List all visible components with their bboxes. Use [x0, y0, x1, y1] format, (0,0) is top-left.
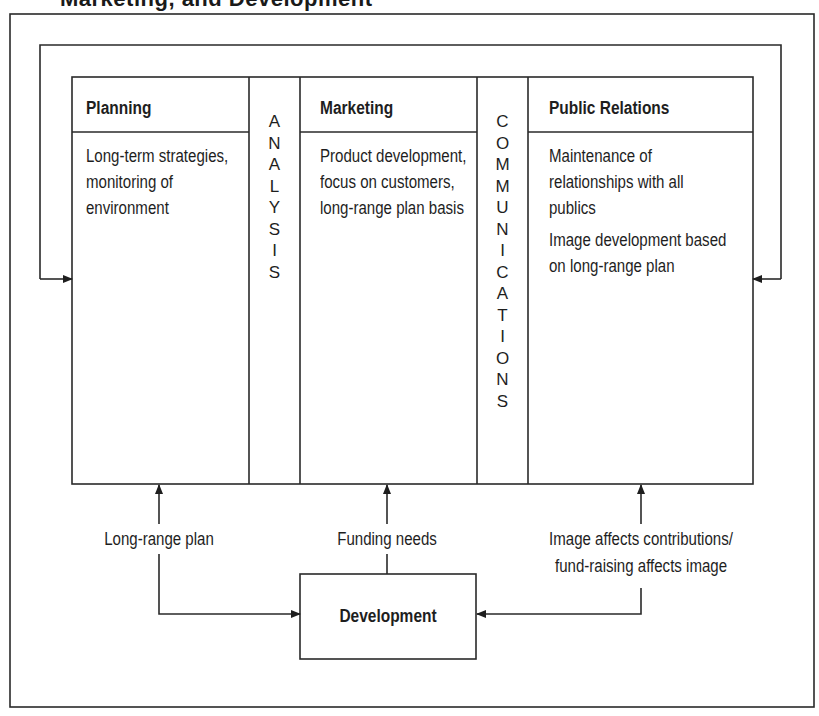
image-connector: [477, 588, 641, 614]
communications-letter: O: [477, 348, 528, 370]
analysis-letter: N: [249, 133, 300, 155]
marketing-text: Product development, focus on customers,…: [320, 143, 475, 221]
pr-heading: Public Relations: [549, 98, 669, 119]
communications-letter: S: [477, 391, 528, 413]
communications-letter: U: [477, 197, 528, 219]
analysis-letter: S: [249, 219, 300, 241]
communications-letter: T: [477, 305, 528, 327]
analysis-vertical-label: ANALYSIS: [249, 111, 300, 283]
planning-body: Long-term strategies, monitoring of envi…: [86, 143, 241, 227]
communications-letter: N: [477, 219, 528, 241]
analysis-letter: L: [249, 176, 300, 198]
planning-text: Long-term strategies, monitoring of envi…: [86, 143, 241, 221]
communications-letter: M: [477, 176, 528, 198]
marketing-heading: Marketing: [320, 98, 393, 119]
analysis-letter: Y: [249, 197, 300, 219]
communications-letter: A: [477, 283, 528, 305]
pr-text-2: Image development based on long-range pl…: [549, 227, 730, 279]
page-title: Marketing, and Development: [60, 0, 373, 12]
communications-letter: C: [477, 111, 528, 133]
communications-letter: I: [477, 326, 528, 348]
planning-heading: Planning: [86, 98, 151, 119]
funding-needs-label: Funding needs: [327, 527, 447, 552]
analysis-letter: I: [249, 240, 300, 262]
pr-text-1: Maintenance of relationships with all pu…: [549, 143, 730, 221]
communications-letter: N: [477, 369, 528, 391]
long-range-plan-label: Long-range plan: [90, 527, 228, 552]
communications-letter: I: [477, 240, 528, 262]
communications-letter: C: [477, 262, 528, 284]
communications-vertical-label: COMMUNICATIONS: [477, 111, 528, 412]
image-affects-label-line1: Image affects contributions/: [538, 527, 744, 552]
pr-body: Maintenance of relationships with all pu…: [549, 143, 730, 285]
communications-letter: M: [477, 154, 528, 176]
long-range-connector: [159, 554, 300, 614]
analysis-letter: A: [249, 154, 300, 176]
analysis-letter: A: [249, 111, 300, 133]
development-label: Development: [312, 606, 463, 627]
image-affects-label-line2: fund-raising affects image: [538, 554, 744, 579]
analysis-letter: S: [249, 262, 300, 284]
marketing-body: Product development, focus on customers,…: [320, 143, 475, 227]
communications-letter: O: [477, 133, 528, 155]
